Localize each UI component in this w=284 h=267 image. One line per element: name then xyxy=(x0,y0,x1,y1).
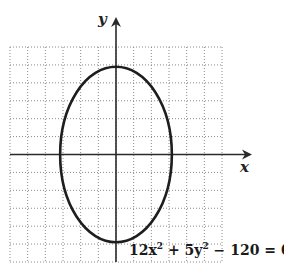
axes xyxy=(10,17,252,262)
x-axis-label: x xyxy=(239,158,250,176)
y-axis-label: y xyxy=(97,10,108,28)
equation-part: − 120 = 0 xyxy=(209,242,284,258)
ellipse-plot: x y 12x2 + 5y2 − 120 = 0 xyxy=(0,0,284,267)
equation-part: 12x xyxy=(129,242,157,258)
equation-label: 12x2 + 5y2 − 120 = 0 xyxy=(129,241,284,258)
equation-part: + 5y xyxy=(163,242,203,258)
